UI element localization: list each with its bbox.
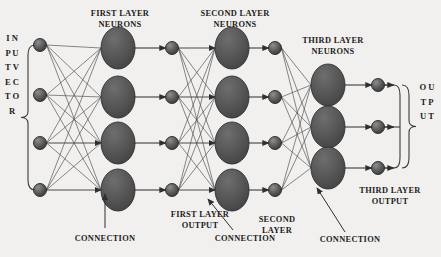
signal-node	[269, 42, 282, 55]
output-label: O U T P U T	[419, 80, 435, 124]
third-layer-neurons-label: THIRD LAYER NEURONS	[290, 35, 376, 57]
signal-node	[269, 184, 282, 197]
signal-node	[166, 91, 179, 104]
input-brace	[21, 45, 35, 190]
neuron-node	[215, 76, 249, 118]
connection-line	[47, 48, 102, 95]
connection-line	[282, 48, 312, 127]
signal-node	[166, 184, 179, 197]
connection-line	[282, 168, 312, 190]
first-layer-output-label: FIRST LAYER OUTPUT	[160, 209, 240, 231]
neuron-node	[101, 169, 135, 211]
signal-node	[372, 121, 385, 134]
neuron-node	[101, 76, 135, 118]
output-leader-line	[385, 85, 401, 127]
signal-node	[269, 91, 282, 104]
signal-node	[166, 137, 179, 150]
connection-line	[47, 45, 102, 48]
neuron-node	[311, 64, 345, 106]
connection-lines-group	[47, 45, 312, 190]
neural-network-diagram: I N P U T V E C T O R O U T P U T FIRST …	[0, 0, 441, 257]
signal-node	[34, 89, 47, 102]
connection-line	[47, 45, 102, 97]
signal-node	[34, 184, 47, 197]
second-layer-neurons-label: SECOND LAYER NEURONS	[188, 8, 282, 30]
first-layer-neurons-label: FIRST LAYER NEURONS	[78, 8, 162, 30]
input-vector-label: I N P U T V E C T O R	[4, 31, 20, 119]
signal-node	[34, 39, 47, 52]
neuron-node	[311, 106, 345, 148]
third-layer-output-label: THIRD LAYER OUTPUT	[350, 185, 430, 207]
neuron-node	[101, 27, 135, 69]
connection-line	[282, 85, 312, 143]
output-brace	[402, 85, 416, 168]
signal-node	[372, 79, 385, 92]
connection-line	[282, 143, 312, 168]
signal-node	[372, 162, 385, 175]
connection-label-2: CONNECTION	[200, 233, 290, 244]
output-leader-line	[385, 127, 401, 169]
signal-node	[166, 42, 179, 55]
connection-arrow-3	[317, 188, 345, 232]
neuron-node	[215, 27, 249, 69]
signal-node	[269, 137, 282, 150]
neuron-node	[311, 147, 345, 189]
connection-label-3: CONNECTION	[305, 234, 395, 245]
connection-label-1: CONNECTION	[60, 233, 150, 244]
neuron-node	[101, 122, 135, 164]
signal-node	[34, 137, 47, 150]
neuron-node	[215, 169, 249, 211]
connection-line	[282, 85, 312, 190]
neuron-node	[215, 122, 249, 164]
